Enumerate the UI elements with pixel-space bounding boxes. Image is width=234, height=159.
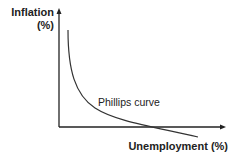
x-axis-arrow-icon: [220, 125, 226, 130]
curve-label: Phillips curve: [98, 96, 160, 108]
phillips-curve: [68, 30, 198, 137]
y-axis-label: Inflation (%): [11, 6, 54, 32]
y-axis-label-line2: (%): [11, 19, 54, 32]
y-axis-arrow-icon: [57, 8, 62, 14]
y-axis-label-line1: Inflation: [11, 6, 54, 19]
x-axis-label: Unemployment (%): [128, 140, 228, 152]
